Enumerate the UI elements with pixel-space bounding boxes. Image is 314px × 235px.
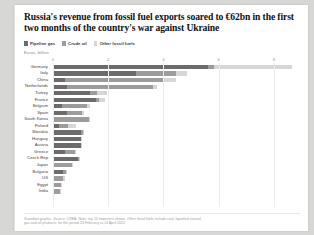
bar-segment-other-fossil-fuels: [79, 157, 80, 161]
legend-label-pipeline-gas: Pipeline gas: [30, 41, 55, 46]
gridline-4: [163, 63, 164, 207]
stacked-bar: [53, 117, 90, 121]
legend-label-other-fossil-fuels: Other fossil fuels: [100, 41, 135, 46]
x-tick-label-2: 2: [107, 57, 109, 62]
bar-segment-other-fossil-fuels: [87, 104, 90, 108]
bar-segment-other-fossil-fuels: [153, 85, 157, 89]
legend-swatch-other-fossil-fuels: [94, 41, 98, 46]
bar-segment-pipeline-gas: [53, 143, 81, 147]
bar-row[interactable]: India: [15, 188, 308, 195]
bar-segment-other-fossil-fuels: [176, 71, 187, 75]
bar-segment-crude-oil: [67, 85, 153, 89]
bar-segment-crude-oil: [90, 91, 97, 95]
bar-rows: GermanyItalyChinaNetherlandsTurkeyFrance…: [15, 64, 308, 207]
stacked-bar: [53, 170, 67, 174]
x-tick-label-6: 6: [217, 57, 219, 62]
bar-segment-pipeline-gas: [53, 104, 62, 108]
bar-segment-crude-oil: [53, 163, 72, 167]
stacked-bar: [53, 163, 73, 167]
stacked-bar: [53, 78, 176, 82]
stacked-bar: [53, 91, 107, 95]
bar-segment-other-fossil-fuels: [97, 91, 107, 95]
stacked-bar: [53, 189, 61, 193]
bar-segment-pipeline-gas: [53, 65, 208, 69]
stacked-bar: [53, 85, 157, 89]
bar-segment-other-fossil-fuels: [72, 163, 74, 167]
bar-segment-other-fossil-fuels: [81, 143, 82, 147]
bar-segment-pipeline-gas: [53, 91, 90, 95]
bar-segment-crude-oil: [53, 183, 61, 187]
stacked-bar: [53, 65, 292, 69]
plot-area: 02468 GermanyItalyChinaNetherlandsTurkey…: [15, 57, 308, 207]
bar-segment-crude-oil: [136, 71, 176, 75]
legend-item-pipeline-gas[interactable]: Pipeline gas: [24, 41, 55, 46]
bar-segment-crude-oil: [67, 111, 82, 115]
stacked-bar: [53, 176, 65, 180]
legend-swatch-crude-oil: [62, 41, 66, 46]
x-tick-label-4: 4: [162, 57, 164, 62]
bar-segment-other-fossil-fuels: [89, 117, 90, 121]
stacked-bar: [53, 111, 84, 115]
bar-segment-crude-oil: [53, 176, 63, 180]
bar-segment-crude-oil: [62, 104, 87, 108]
bar-segment-pipeline-gas: [53, 170, 63, 174]
stacked-bar: [53, 104, 90, 108]
bar-segment-pipeline-gas: [53, 71, 136, 75]
bar-segment-other-fossil-fuels: [60, 189, 61, 193]
x-tick-label-8: 8: [273, 57, 275, 62]
chart-card: Russia's revenue from fossil fuel export…: [14, 5, 308, 231]
bar-segment-other-fossil-fuels: [61, 183, 62, 187]
stacked-bar: [53, 150, 76, 154]
bar-segment-other-fossil-fuels: [66, 170, 67, 174]
bar-segment-pipeline-gas: [53, 130, 81, 134]
bar-segment-other-fossil-fuels: [75, 150, 76, 154]
footnote-line-2: gas and oil products, for the period 24 …: [24, 221, 300, 226]
stacked-bar: [53, 130, 83, 134]
footer-divider: [24, 213, 300, 214]
chart-title: Russia's revenue from fossil fuel export…: [24, 11, 300, 34]
x-tick-label-0: 0: [52, 57, 54, 62]
bar-segment-pipeline-gas: [53, 157, 78, 161]
legend-item-crude-oil[interactable]: Crude oil: [62, 41, 87, 46]
stacked-bar: [53, 143, 82, 147]
bar-segment-other-fossil-fuels: [82, 111, 84, 115]
bar-segment-crude-oil: [65, 150, 75, 154]
bar-segment-pipeline-gas: [53, 78, 65, 82]
stacked-bar: [53, 124, 76, 128]
legend-item-other-fossil-fuels[interactable]: Other fossil fuels: [94, 41, 135, 46]
stacked-bar: [53, 71, 187, 75]
bar-segment-other-fossil-fuels: [163, 78, 175, 82]
gridline-2: [108, 63, 109, 207]
axis-unit-label: Euros, billion: [24, 50, 308, 55]
bar-segment-pipeline-gas: [53, 85, 67, 89]
gridline-0: [53, 63, 54, 207]
chart-legend: Pipeline gasCrude oilOther fossil fuels: [24, 41, 308, 46]
bar-segment-crude-oil: [53, 117, 89, 121]
footer: Guardian graphic. Source: CREA. Note: to…: [24, 213, 300, 226]
legend-label-crude-oil: Crude oil: [68, 41, 87, 46]
bar-segment-crude-oil: [65, 78, 163, 82]
bar-segment-other-fossil-fuels: [214, 65, 291, 69]
stacked-bar: [53, 157, 79, 161]
stacked-bar: [53, 137, 82, 141]
bar-segment-other-fossil-fuels: [68, 124, 76, 128]
bar-segment-crude-oil: [53, 189, 60, 193]
stacked-bar: [53, 183, 62, 187]
bar-segment-crude-oil: [59, 124, 69, 128]
bar-segment-pipeline-gas: [53, 111, 67, 115]
bar-segment-pipeline-gas: [53, 137, 81, 141]
stacked-bar: [53, 98, 105, 102]
category-label: India: [15, 188, 51, 195]
x-axis: 02468: [15, 57, 308, 64]
title-block: Russia's revenue from fossil fuel export…: [15, 5, 308, 34]
gridline-8: [274, 63, 275, 207]
bar-segment-other-fossil-fuels: [63, 176, 64, 180]
gridline-6: [219, 63, 220, 207]
bar-segment-other-fossil-fuels: [81, 137, 82, 141]
bar-segment-pipeline-gas: [53, 150, 65, 154]
bar-segment-other-fossil-fuels: [83, 130, 84, 134]
bar-segment-other-fossil-fuels: [99, 98, 106, 102]
bar-segment-crude-oil: [208, 65, 215, 69]
legend-swatch-pipeline-gas: [24, 41, 28, 46]
bar-segment-pipeline-gas: [53, 98, 96, 102]
